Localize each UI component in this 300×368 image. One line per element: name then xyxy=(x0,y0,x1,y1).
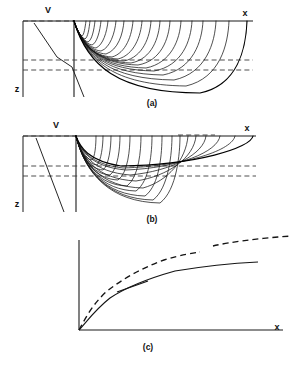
seismic-ray-figure: V x z (a) xyxy=(0,0,300,368)
ray xyxy=(74,21,170,65)
panel-c-caption: (c) xyxy=(143,342,154,352)
panel-a: V x z (a) xyxy=(15,5,253,108)
panel-b-x-label: x xyxy=(244,123,249,133)
panel-c-curve-solid xyxy=(79,262,258,330)
panel-b-z-label: z xyxy=(15,199,20,209)
panel-a-z-label: z xyxy=(15,84,20,94)
ray xyxy=(74,21,216,80)
ray xyxy=(74,21,203,75)
panel-a-v-label: V xyxy=(45,5,51,15)
panel-c-curve-dashed-branch xyxy=(213,236,292,246)
panel-c: x (c) xyxy=(79,236,292,352)
panel-a-x-label: x xyxy=(242,8,247,18)
panel-a-velocity-frame xyxy=(23,21,74,97)
panel-b: V x z (b) xyxy=(15,120,256,224)
panel-b-caption: (b) xyxy=(147,214,158,224)
ray xyxy=(76,136,235,168)
panel-b-v-label: V xyxy=(53,120,59,130)
figure-container: V x z (a) xyxy=(0,0,300,368)
panel-b-ray-fan xyxy=(76,136,253,203)
panel-c-x-label: x xyxy=(274,322,279,332)
panel-a-caption: (a) xyxy=(147,98,158,108)
panel-a-ray-fan xyxy=(74,21,247,93)
panel-b-velocity-profile xyxy=(36,138,64,212)
panel-c-curve-dashed xyxy=(79,252,200,330)
panel-c-tangent-segment xyxy=(117,281,148,292)
